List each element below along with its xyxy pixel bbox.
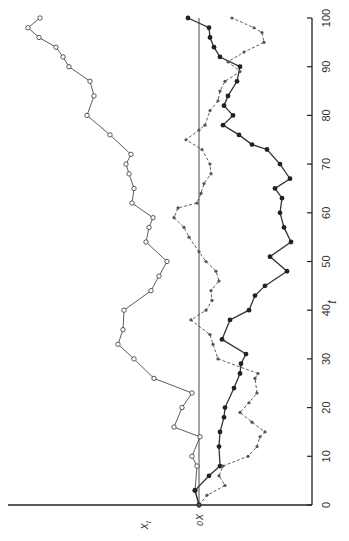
- data-point-star: [258, 435, 261, 438]
- data-point-open-circle: [108, 133, 112, 137]
- data-point-filled-circle: [193, 488, 198, 493]
- data-point-open-circle: [151, 215, 155, 219]
- data-point-open-circle: [54, 45, 58, 49]
- data-point-filled-circle: [273, 186, 278, 191]
- data-point-star: [238, 411, 241, 414]
- t-tick-label: 30: [320, 353, 332, 365]
- data-point-filled-circle: [231, 113, 236, 118]
- data-point-open-circle: [37, 35, 41, 39]
- series-open-circle: [26, 16, 202, 507]
- data-point-open-circle: [124, 162, 128, 166]
- data-point-star: [205, 494, 208, 497]
- data-point-star: [246, 455, 249, 458]
- t-tick-label: 10: [320, 450, 332, 462]
- data-point-star: [208, 333, 211, 336]
- data-point-open-circle: [147, 225, 151, 229]
- data-point-filled-circle: [207, 473, 212, 478]
- data-point-filled-circle: [253, 293, 258, 298]
- data-point-star: [217, 279, 220, 282]
- x0-label: 0x: [192, 513, 206, 526]
- data-point-star: [199, 192, 202, 195]
- data-point-filled-circle: [220, 337, 225, 342]
- data-point-star: [242, 50, 245, 53]
- data-point-star: [230, 16, 233, 19]
- data-point-open-circle: [144, 240, 148, 244]
- data-point-star: [182, 226, 185, 229]
- data-point-star: [211, 343, 214, 346]
- data-point-open-circle: [180, 405, 184, 409]
- t-tick-label: 90: [320, 61, 332, 73]
- data-point-star: [204, 260, 207, 263]
- data-point-open-circle: [61, 55, 65, 59]
- data-point-open-circle: [38, 16, 42, 20]
- data-point-star: [223, 80, 226, 83]
- data-point-star: [208, 109, 211, 112]
- data-point-star: [200, 148, 203, 151]
- svg-text:0x: 0x: [192, 513, 206, 526]
- t-tick-label: 80: [320, 109, 332, 121]
- data-point-star: [187, 236, 190, 239]
- data-point-star: [216, 99, 219, 102]
- data-point-filled-circle: [280, 196, 285, 201]
- data-point-star: [208, 163, 211, 166]
- data-point-star: [217, 474, 220, 477]
- t-axis-ticks: 0102030405060708090100: [307, 9, 332, 508]
- t-tick-label: 100: [320, 9, 332, 27]
- data-point-filled-circle: [221, 123, 226, 128]
- t-tick-label: 0: [320, 502, 332, 508]
- data-point-filled-circle: [223, 405, 228, 410]
- data-point-star: [260, 31, 263, 34]
- data-point-filled-circle: [235, 79, 240, 84]
- data-point-open-circle: [116, 342, 120, 346]
- data-point-filled-circle: [289, 240, 294, 245]
- data-point-star: [256, 372, 259, 375]
- data-point-star: [247, 401, 250, 404]
- data-point-star: [216, 357, 219, 360]
- data-point-star: [262, 41, 265, 44]
- data-point-star: [210, 299, 213, 302]
- data-point-filled-circle: [217, 444, 222, 449]
- data-point-open-circle: [92, 94, 96, 98]
- data-point-star: [204, 309, 207, 312]
- data-point-open-circle: [198, 435, 202, 439]
- series-layer: [26, 16, 294, 508]
- data-point-star: [255, 445, 258, 448]
- data-point-filled-circle: [228, 318, 233, 323]
- data-point-star: [197, 503, 200, 506]
- data-point-open-circle: [127, 172, 131, 176]
- data-point-filled-circle: [265, 147, 270, 152]
- data-point-filled-circle: [207, 25, 212, 30]
- data-point-star: [195, 201, 198, 204]
- data-point-filled-circle: [278, 162, 283, 167]
- data-point-filled-circle: [250, 142, 255, 147]
- data-point-filled-circle: [282, 225, 287, 230]
- data-point-open-circle: [190, 391, 194, 395]
- data-point-filled-circle: [288, 176, 293, 181]
- data-point-open-circle: [190, 454, 194, 458]
- data-point-star: [197, 250, 200, 253]
- svg-text:xt: xt: [137, 520, 153, 530]
- data-point-open-circle: [129, 152, 133, 156]
- data-point-filled-circle: [268, 254, 273, 259]
- data-point-star: [223, 484, 226, 487]
- t-tick-label: 40: [320, 304, 332, 316]
- data-point-filled-circle: [222, 415, 227, 420]
- data-point-filled-circle: [244, 352, 249, 357]
- t-tick-label: 50: [320, 255, 332, 267]
- data-point-open-circle: [149, 289, 153, 293]
- data-point-star: [209, 172, 212, 175]
- data-point-filled-circle: [208, 35, 213, 40]
- data-point-filled-circle: [237, 132, 242, 137]
- data-point-star: [176, 206, 179, 209]
- data-point-filled-circle: [212, 45, 217, 50]
- data-point-star: [226, 60, 229, 63]
- data-point-filled-circle: [239, 361, 244, 366]
- data-point-star: [214, 270, 217, 273]
- data-point-open-circle: [195, 464, 199, 468]
- series-line: [28, 18, 200, 505]
- x-axis-label: xt: [137, 520, 153, 530]
- data-point-filled-circle: [218, 55, 223, 60]
- data-point-filled-circle: [238, 371, 243, 376]
- data-point-star: [255, 391, 258, 394]
- data-point-open-circle: [157, 274, 161, 278]
